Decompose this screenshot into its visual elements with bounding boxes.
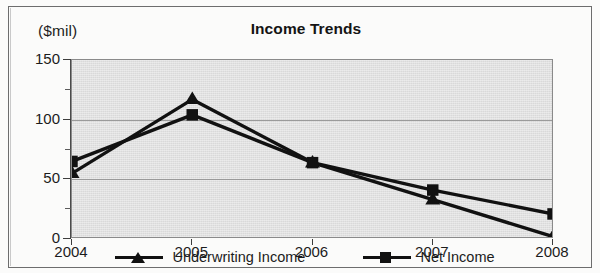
y-tick-150 xyxy=(63,59,71,60)
chart-legend: Underwriting IncomeNet Income xyxy=(0,249,600,265)
square-marker-icon xyxy=(71,156,78,168)
series-net-income xyxy=(71,109,553,220)
legend-label: Underwriting Income xyxy=(172,249,305,265)
plot-area xyxy=(71,59,553,238)
triangle-marker-icon xyxy=(71,166,80,179)
y-tick-label-wrap-50: 50 xyxy=(14,169,60,187)
y-minor-tick-75 xyxy=(65,149,71,150)
y-tick-label-wrap-150: 150 xyxy=(14,50,60,68)
y-tick-0 xyxy=(63,238,71,239)
square-marker-icon xyxy=(380,252,391,263)
y-tick-label-100: 100 xyxy=(18,110,60,127)
series-layer xyxy=(72,60,553,238)
legend-entry-net-income[interactable]: Net Income xyxy=(363,249,494,265)
legend-entry-underwriting-income[interactable]: Underwriting Income xyxy=(115,249,305,265)
legend-marker xyxy=(115,249,163,265)
y-minor-tick-25 xyxy=(65,208,71,209)
y-minor-tick-125 xyxy=(65,89,71,90)
square-marker-icon xyxy=(427,184,439,196)
triangle-marker-icon xyxy=(131,252,145,263)
y-tick-label-wrap-100: 100 xyxy=(14,110,60,128)
square-marker-icon xyxy=(307,157,319,169)
chart-title: Income Trends xyxy=(0,20,600,38)
y-tick-label-150: 150 xyxy=(18,50,60,67)
y-tick-50 xyxy=(63,178,71,179)
legend-label: Net Income xyxy=(420,249,494,265)
triangle-marker-icon xyxy=(185,92,200,105)
y-tick-label-50: 50 xyxy=(18,169,60,186)
y-tick-100 xyxy=(63,119,71,120)
legend-marker xyxy=(363,249,411,265)
square-marker-icon xyxy=(547,208,553,220)
square-marker-icon xyxy=(187,109,199,121)
income-trends-chart-figure: ($mil) Income Trends 050100150 200420052… xyxy=(0,0,600,273)
